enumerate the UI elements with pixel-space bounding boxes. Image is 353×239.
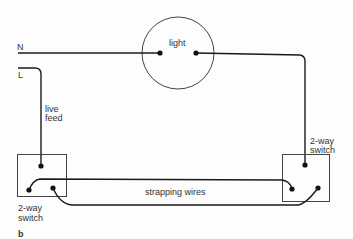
live-feed-wire	[18, 68, 41, 166]
live-label: L	[18, 70, 23, 80]
left-switch-label-line1: 2-way	[18, 203, 42, 213]
left-switch-common-terminal	[38, 163, 43, 168]
left-switch-label-line2: switch	[18, 213, 43, 223]
neutral-label: N	[17, 42, 24, 52]
strapping-wires-label: strapping wires	[145, 187, 206, 197]
wiring-diagram: N L light live feed 2-way switch 2-way s…	[0, 0, 353, 239]
switched-live-wire	[196, 53, 305, 165]
live-feed-label-line2: feed	[45, 113, 63, 123]
right-switch-label-line2: switch	[310, 145, 335, 155]
light-terminal-left	[157, 50, 162, 55]
left-switch-box	[18, 155, 67, 197]
light-label: light	[169, 38, 186, 48]
right-switch-common-terminal	[302, 162, 307, 167]
right-switch-box	[283, 155, 330, 202]
figure-label: b	[18, 229, 24, 239]
light-terminal-right	[193, 50, 198, 55]
